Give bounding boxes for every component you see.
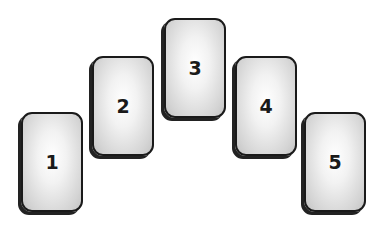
card-1-label: 1 xyxy=(45,151,58,173)
card-2-label: 2 xyxy=(116,95,129,117)
card-5: 5 xyxy=(304,112,366,212)
card-4-label: 4 xyxy=(259,95,272,117)
card-2: 2 xyxy=(92,56,154,156)
card-5-label: 5 xyxy=(328,151,341,173)
card-4: 4 xyxy=(235,56,297,156)
card-3: 3 xyxy=(164,18,226,118)
card-3-label: 3 xyxy=(188,57,201,79)
card-1: 1 xyxy=(21,112,83,212)
